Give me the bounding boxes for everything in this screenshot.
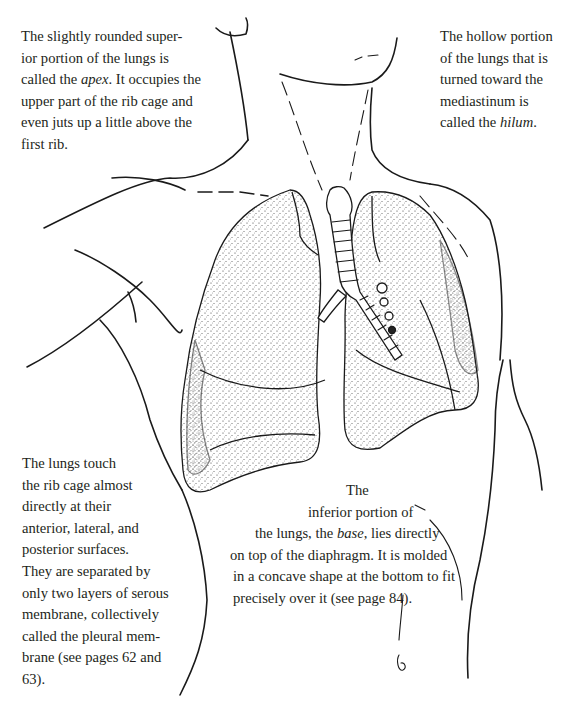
caption-line: only two layers of serous <box>22 583 182 605</box>
caption-line: the lungs, the base, lies directly <box>228 523 558 545</box>
term-base: base <box>337 525 364 541</box>
term-hilum: hilum <box>500 114 533 130</box>
caption-line: They are separated by <box>22 561 182 583</box>
caption-line: first rib. <box>21 136 68 152</box>
caption-line: membrane, collectively <box>22 604 182 626</box>
caption-text: , lies directly <box>364 525 440 541</box>
caption-text: inferior portion of <box>308 504 413 520</box>
caption-line: The lungs touch <box>22 453 182 475</box>
term-apex: apex <box>81 71 109 87</box>
caption-line: precisely over it (see page 84). <box>228 588 558 610</box>
caption-line: directly at their <box>22 496 182 518</box>
caption-line: The hollow portion <box>440 28 553 44</box>
caption-line: in a concave shape at the bottom to fit <box>228 566 558 588</box>
caption-line: on top of the diaphragm. It is molded <box>228 545 558 567</box>
caption-line: 63). <box>22 669 182 691</box>
caption-line: called the pleural mem- <box>22 626 182 648</box>
caption-line: called the <box>21 71 81 87</box>
caption-line: inferior portion of <box>228 502 558 524</box>
head-outline <box>216 18 397 85</box>
caption-line: upper part of the rib cage and <box>21 93 193 109</box>
caption-line: turned toward the <box>440 71 543 87</box>
neck-outline <box>230 32 430 190</box>
caption-rib-contact: The lungs touch the rib cage almost dire… <box>22 453 182 691</box>
caption-line: . <box>533 114 537 130</box>
caption-line: The slightly rounded super- <box>21 28 182 44</box>
caption-apex: The slightly rounded super- ior portion … <box>21 26 221 156</box>
caption-line: The <box>228 480 558 502</box>
caption-base: The inferior portion of the lungs, the b… <box>228 480 558 610</box>
right-lung <box>181 190 325 492</box>
caption-line: . It occupies the <box>109 71 201 87</box>
caption-line: even juts up a little above the <box>21 114 192 130</box>
left-lung <box>344 192 478 450</box>
caption-hilum: The hollow portion of the lungs that is … <box>440 26 570 134</box>
caption-line: of the lungs that is <box>440 50 548 66</box>
caption-line: brane (see pages 62 and <box>22 647 182 669</box>
caption-line: anterior, lateral, and <box>22 518 182 540</box>
caption-line: ior portion of the lungs is <box>21 50 169 66</box>
caption-line: called the <box>440 114 500 130</box>
caption-line: the rib cage almost <box>22 475 182 497</box>
caption-text: the lungs, the <box>255 525 337 541</box>
caption-line: mediastinum is <box>440 93 529 109</box>
caption-line: posterior surfaces. <box>22 539 182 561</box>
